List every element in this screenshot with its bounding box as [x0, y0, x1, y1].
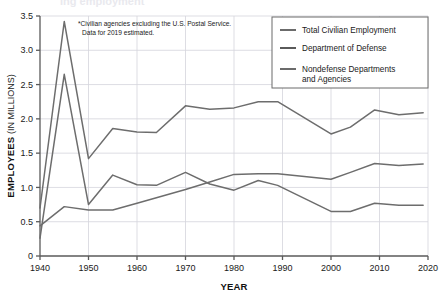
y-tick-label: 2.0	[20, 114, 33, 124]
legend-label-3-line2[interactable]: and Agencies	[302, 75, 351, 84]
y-tick-label: 3.0	[20, 45, 33, 55]
y-axis-title: EMPLOYEES (IN MILLIONS)	[5, 74, 16, 197]
chart-figure: ing employment 00.51.01.52.02.53.03.5194…	[0, 0, 439, 294]
x-tick-label: 2010	[369, 263, 389, 273]
y-tick-label: 1.0	[20, 183, 33, 193]
legend-label-2[interactable]: Department of Defense	[302, 44, 387, 53]
y-tick-label: 2.5	[20, 80, 33, 90]
y-tick-label: 0.5	[20, 217, 33, 227]
annotation-line-1: *Civilian agencies excluding the U.S. Po…	[78, 20, 231, 28]
y-tick-label: 0	[28, 251, 33, 261]
series-line-2	[40, 74, 423, 238]
x-tick-label: 1950	[78, 263, 98, 273]
x-tick-label: 1980	[224, 263, 244, 273]
x-tick-label: 1960	[127, 263, 147, 273]
y-tick-label: 1.5	[20, 148, 33, 158]
x-axis-title: YEAR	[220, 281, 247, 292]
x-tick-label: 1940	[30, 263, 50, 273]
x-tick-label: 1990	[272, 263, 292, 273]
x-tick-label: 1970	[175, 263, 195, 273]
x-tick-label: 2020	[418, 263, 438, 273]
x-tick-label: 2000	[321, 263, 341, 273]
y-tick-label: 3.5	[20, 11, 33, 21]
legend-label-1[interactable]: Total Civilian Employment	[302, 26, 396, 35]
line-chart-svg: 00.51.01.52.02.53.03.5194019501960197019…	[0, 0, 439, 294]
legend-label-3[interactable]: Nondefense Departments	[302, 65, 395, 74]
annotation-line-2: Data for 2019 estimated.	[82, 29, 154, 36]
